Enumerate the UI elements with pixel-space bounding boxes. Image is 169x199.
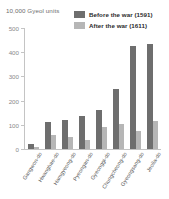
y-tick-400 xyxy=(21,52,24,53)
y-tick-0 xyxy=(21,149,24,150)
y-axis-title: 10,000 Gyeol units xyxy=(6,7,59,14)
legend-swatch-before xyxy=(74,11,85,18)
y-tick-300 xyxy=(21,76,24,77)
y-tick-200 xyxy=(21,101,24,102)
plot-area: 0100200300400500 xyxy=(24,28,161,150)
bar-chart: 10,000 Gyeol units Before the war (1591)… xyxy=(0,0,169,199)
bar-after[interactable] xyxy=(119,124,125,149)
bar-group xyxy=(93,28,110,149)
bar-after[interactable] xyxy=(85,140,91,149)
legend-item-before[interactable]: Before the war (1591) xyxy=(74,9,153,20)
bar-after[interactable] xyxy=(102,127,108,149)
x-axis-labels: Gangwon-doHwanghae-doHamgyeong-doPyeonga… xyxy=(24,151,161,199)
bar-group xyxy=(144,28,161,149)
y-tick-500 xyxy=(21,28,24,29)
y-tick-label-400: 400 xyxy=(9,49,19,56)
legend-label-before: Before the war (1591) xyxy=(89,11,153,18)
bar-after[interactable] xyxy=(153,121,159,149)
bar-after[interactable] xyxy=(68,137,74,149)
y-tick-label-200: 200 xyxy=(9,97,19,104)
y-tick-label-300: 300 xyxy=(9,73,19,80)
bar-after[interactable] xyxy=(34,147,40,149)
bar-group xyxy=(25,28,42,149)
bar-group xyxy=(59,28,76,149)
bar-series-container xyxy=(25,28,161,149)
bar-group xyxy=(127,28,144,149)
x-axis-label: Jeolla-do xyxy=(145,151,162,173)
bar-group xyxy=(110,28,127,149)
y-tick-label-0: 0 xyxy=(16,146,19,153)
bar-group xyxy=(42,28,59,149)
bar-group xyxy=(76,28,93,149)
bar-after[interactable] xyxy=(136,131,142,149)
bar-after[interactable] xyxy=(51,135,57,149)
x-axis-line xyxy=(24,149,161,150)
y-tick-100 xyxy=(21,125,24,126)
y-tick-label-500: 500 xyxy=(9,25,19,32)
y-tick-label-100: 100 xyxy=(9,121,19,128)
